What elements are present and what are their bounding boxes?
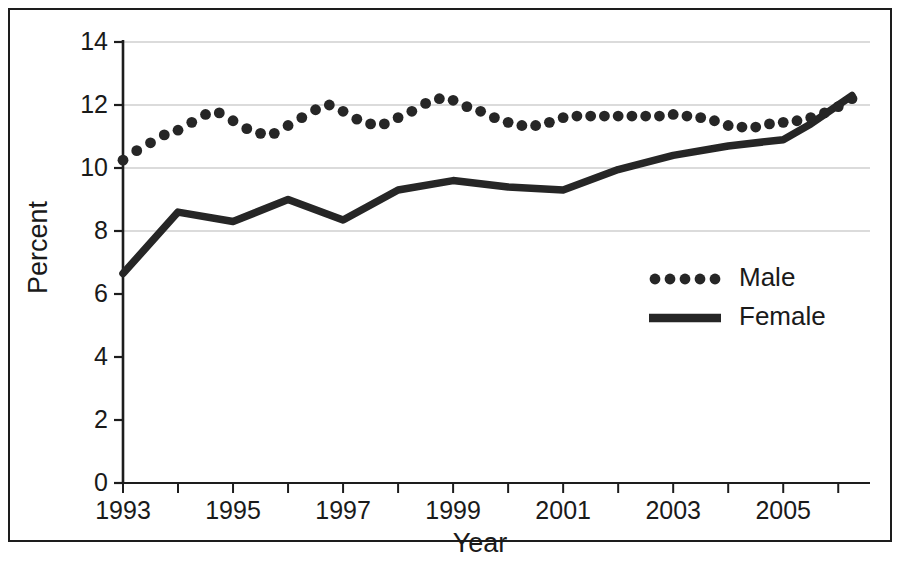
y-axis-ticks xyxy=(114,42,123,483)
x-axis-title: Year xyxy=(380,528,580,559)
x-tick-label: 2003 xyxy=(628,496,718,525)
y-tick-label: 6 xyxy=(48,279,108,308)
y-tick-label: 4 xyxy=(48,342,108,371)
x-tick-label: 2005 xyxy=(738,496,828,525)
x-tick-label: 1999 xyxy=(408,496,498,525)
y-tick-label: 2 xyxy=(48,405,108,434)
x-tick-label: 1997 xyxy=(298,496,388,525)
y-tick-label: 14 xyxy=(48,27,108,56)
legend-label-male: Male xyxy=(739,262,795,293)
y-tick-label: 10 xyxy=(48,153,108,182)
y-tick-label: 12 xyxy=(48,90,108,119)
gridlines xyxy=(123,42,870,231)
legend-markers xyxy=(649,274,721,318)
y-tick-label: 0 xyxy=(48,468,108,497)
x-tick-label: 1995 xyxy=(188,496,278,525)
x-tick-label: 1993 xyxy=(78,496,168,525)
legend-label-female: Female xyxy=(739,301,826,332)
x-tick-label: 2001 xyxy=(518,496,608,525)
x-axis-ticks xyxy=(123,483,838,493)
series-male-dots xyxy=(118,93,858,165)
chart-figure: Percent Year 02468101214 199319951997199… xyxy=(0,0,906,570)
y-tick-label: 8 xyxy=(48,216,108,245)
